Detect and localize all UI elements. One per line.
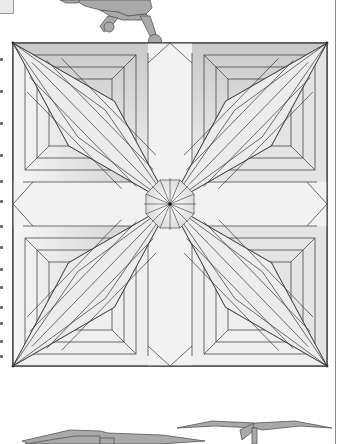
robot-figure-icon (60, 0, 162, 48)
folded-model-left-icon (22, 430, 205, 444)
crease-square (12, 42, 329, 368)
diagram-page (0, 0, 339, 444)
crease-pattern-diagram (0, 0, 339, 444)
